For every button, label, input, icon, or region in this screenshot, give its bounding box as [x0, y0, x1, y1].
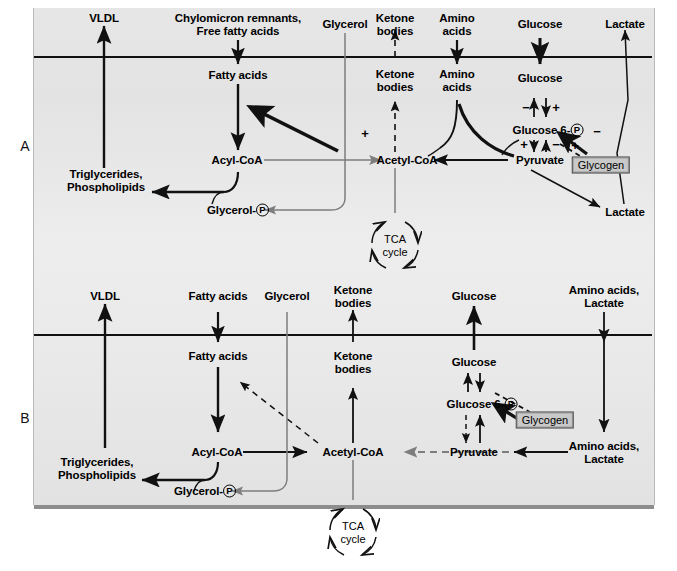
- label-glucose-6-phosphate-b: Glucose 6-P: [447, 398, 518, 411]
- panel-a-arrows: [104, 26, 628, 268]
- label-ketone-bodies-in-a: Ketone bodies: [376, 68, 414, 93]
- label-acyl-coa-b: Acyl-CoA: [192, 446, 243, 459]
- label-lactate-out-a: Lactate: [605, 18, 645, 31]
- label-glycerol-phosphate-a: Glycerol-P: [207, 204, 269, 217]
- glycogen-box-b: Glycogen: [516, 412, 574, 429]
- glycogen-box-a: Glycogen: [572, 157, 630, 174]
- label-ketone-bodies-out-a: Ketone bodies: [376, 12, 414, 37]
- sign-minus-g6p-a: −: [552, 137, 560, 152]
- label-ketone-bodies-in-b: Ketone bodies: [334, 350, 372, 375]
- phosphate-circle-icon: P: [256, 204, 269, 217]
- sign-plus-glycogen-a: +: [571, 138, 579, 153]
- figure-canvas: A VLDL Chylomicron remnants, Free fatty …: [0, 0, 677, 571]
- label-glycerol-out-b: Glycerol: [264, 290, 309, 303]
- label-amino-acids-lactate-in-b: Amino acids, Lactate: [569, 440, 639, 465]
- label-fatty-acids-out-b: Fatty acids: [189, 290, 248, 303]
- label-amino-acids-lactate-out-b: Amino acids, Lactate: [569, 284, 639, 309]
- label-lactate-in-a: Lactate: [605, 206, 645, 219]
- sign-minus-glycogen-a: −: [593, 124, 601, 139]
- sign-plus-g6p-a: +: [520, 137, 528, 152]
- label-triglycerides-phospholipids-a: Triglycerides, Phospholipids: [67, 168, 145, 193]
- label-vldl-b: VLDL: [90, 290, 120, 303]
- phosphate-circle-icon: P: [504, 398, 517, 411]
- label-glucose-in-a: Glucose: [518, 72, 563, 85]
- label-glucose-out-b: Glucose: [452, 290, 497, 303]
- panel-label-a: A: [20, 138, 29, 154]
- phosphate-circle-icon: P: [570, 124, 583, 137]
- panel-b-arrows: [105, 304, 604, 555]
- label-glucose-out-a: Glucose: [518, 18, 563, 31]
- sign-minus-glucose-a: −: [522, 100, 530, 115]
- label-amino-acids-in-a: Amino acids: [439, 68, 474, 93]
- tca-cycle-label-a: TCA cycle: [382, 233, 407, 258]
- tca-cycle-label-b: TCA cycle: [340, 520, 365, 545]
- g6p-text: Glucose 6-: [513, 124, 571, 136]
- glycerolp-text: Glycerol-: [174, 485, 223, 497]
- label-glycerol-out-a: Glycerol: [322, 18, 367, 31]
- phosphate-circle-icon: P: [223, 485, 236, 498]
- label-acetyl-coa-a: Acetyl-CoA: [377, 154, 438, 167]
- label-glucose-6-phosphate-a: Glucose 6-P: [513, 124, 584, 137]
- label-ketone-bodies-out-b: Ketone bodies: [334, 284, 372, 309]
- glycerolp-text: Glycerol-: [207, 204, 256, 216]
- label-chylomicron-remnants-a: Chylomicron remnants, Free fatty acids: [175, 12, 301, 37]
- label-vldl-a: VLDL: [89, 12, 119, 25]
- sign-plus-glucose-a: +: [552, 100, 560, 115]
- label-amino-acids-out-a: Amino acids: [439, 12, 474, 37]
- panel-label-b: B: [20, 410, 29, 426]
- label-triglycerides-phospholipids-b: Triglycerides, Phospholipids: [58, 456, 136, 481]
- sign-plus-acetyl-coa-a: +: [361, 126, 369, 141]
- label-pyruvate-b: Pyruvate: [450, 446, 498, 459]
- label-acyl-coa-a: Acyl-CoA: [212, 154, 263, 167]
- label-acetyl-coa-b: Acetyl-CoA: [323, 446, 384, 459]
- label-fatty-acids-b: Fatty acids: [189, 350, 248, 363]
- label-glucose-in-b: Glucose: [452, 356, 497, 369]
- label-fatty-acids-a: Fatty acids: [209, 69, 268, 82]
- label-pyruvate-a: Pyruvate: [516, 154, 564, 167]
- g6p-text: Glucose 6-: [447, 398, 505, 410]
- label-glycerol-phosphate-b: Glycerol-P: [174, 485, 236, 498]
